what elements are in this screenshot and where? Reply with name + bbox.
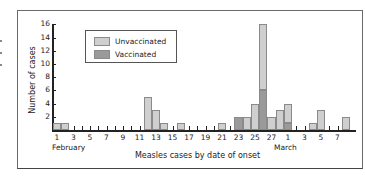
legend-item-vaccinated: Vaccinated	[94, 49, 156, 59]
x-tick	[115, 126, 116, 130]
bar-feb-26	[259, 24, 267, 130]
bar-mar-8	[342, 117, 350, 130]
y-tick	[52, 64, 56, 65]
y-tick	[52, 24, 56, 25]
bar-segment-unvaccinated	[342, 117, 350, 130]
y-tick-label: 10	[36, 60, 50, 68]
bar-segment-unvaccinated	[267, 117, 275, 130]
bar-feb-1	[53, 123, 61, 130]
bar-mar-1	[284, 104, 292, 130]
x-tick	[329, 126, 330, 130]
x-tick	[214, 126, 215, 130]
bar-feb-23	[234, 117, 242, 130]
bar-segment-unvaccinated	[152, 110, 160, 130]
y-tick-label: 4	[36, 100, 50, 108]
y-tick-label: 6	[36, 86, 50, 94]
x-tick	[74, 126, 75, 130]
y-tick-label: 2	[36, 113, 50, 121]
x-tick	[305, 126, 306, 130]
bar-feb-14	[160, 123, 168, 130]
x-tick	[197, 126, 198, 130]
bar-segment-unvaccinated	[317, 110, 325, 130]
x-tick-label: 27	[265, 134, 279, 142]
x-tick	[98, 126, 99, 130]
x-tick-label: 1	[50, 134, 64, 142]
bar-feb-21	[218, 123, 226, 130]
bar-segment-unvaccinated	[160, 123, 168, 130]
x-tick	[140, 126, 141, 130]
bar-feb-2	[61, 123, 69, 130]
x-axis	[52, 130, 356, 132]
x-tick-label: 1	[281, 134, 295, 142]
x-tick-label: 9	[116, 134, 130, 142]
bar-feb-27	[267, 117, 275, 130]
bar-segment-unvaccinated	[61, 123, 69, 130]
bar-feb-16	[177, 123, 185, 130]
bar-segment-unvaccinated	[309, 123, 317, 130]
x-tick-label: 5	[314, 134, 328, 142]
x-tick-label: 7	[331, 134, 345, 142]
x-tick	[338, 126, 339, 130]
x-tick-label: 5	[83, 134, 97, 142]
legend-label: Unvaccinated	[115, 37, 166, 46]
x-tick-label: 23	[232, 134, 246, 142]
x-tick	[131, 126, 132, 130]
side-marks	[0, 40, 4, 76]
bar-segment-unvaccinated	[243, 117, 251, 130]
bar-segment-vaccinated	[284, 123, 292, 130]
bar-feb-28	[276, 110, 284, 130]
y-tick	[52, 117, 56, 118]
bar-segment-unvaccinated	[144, 97, 152, 130]
y-tick	[52, 77, 56, 78]
x-tick-label: 13	[149, 134, 163, 142]
x-tick	[230, 126, 231, 130]
x-axis-label: Measles cases by date of onset	[0, 151, 365, 160]
x-tick	[90, 126, 91, 130]
legend-swatch-vaccinated	[94, 50, 110, 59]
y-tick	[52, 104, 56, 105]
x-tick-label: 19	[199, 134, 213, 142]
bar-mar-4	[309, 123, 317, 130]
bar-segment-vaccinated	[234, 117, 242, 130]
x-tick-label: 15	[166, 134, 180, 142]
bar-feb-25	[251, 104, 259, 130]
bar-segment-unvaccinated	[284, 104, 292, 124]
bar-feb-13	[152, 110, 160, 130]
x-tick-label: 17	[182, 134, 196, 142]
x-tick	[296, 126, 297, 130]
x-tick	[82, 126, 83, 130]
bar-segment-unvaccinated	[251, 104, 259, 130]
bar-feb-12	[144, 97, 152, 130]
y-tick	[52, 38, 56, 39]
x-tick-label: 11	[133, 134, 147, 142]
bar-segment-unvaccinated	[218, 123, 226, 130]
y-tick	[52, 51, 56, 52]
y-tick-label: 14	[36, 34, 50, 42]
legend-label: Vaccinated	[115, 50, 156, 59]
y-tick-label: 12	[36, 47, 50, 55]
bar-segment-vaccinated	[259, 90, 267, 130]
bar-segment-unvaccinated	[276, 110, 284, 130]
y-tick-label: 16	[36, 20, 50, 28]
x-tick-label: 7	[100, 134, 114, 142]
x-tick	[206, 126, 207, 130]
x-tick	[107, 126, 108, 130]
y-tick-label: 8	[36, 73, 50, 81]
bar-feb-24	[243, 117, 251, 130]
bar-segment-unvaccinated	[259, 24, 267, 90]
bar-segment-unvaccinated	[53, 123, 61, 130]
y-tick	[52, 90, 56, 91]
x-tick	[123, 126, 124, 130]
x-tick	[189, 126, 190, 130]
legend-swatch-unvaccinated	[94, 37, 110, 46]
x-tick-label: 21	[215, 134, 229, 142]
legend-item-unvaccinated: Unvaccinated	[94, 36, 166, 46]
bar-mar-5	[317, 110, 325, 130]
x-tick-label: 3	[298, 134, 312, 142]
legend: Unvaccinated Vaccinated	[85, 30, 177, 63]
x-tick-label: 3	[67, 134, 81, 142]
x-tick-label: 25	[248, 134, 262, 142]
bar-segment-unvaccinated	[177, 123, 185, 130]
x-tick	[173, 126, 174, 130]
